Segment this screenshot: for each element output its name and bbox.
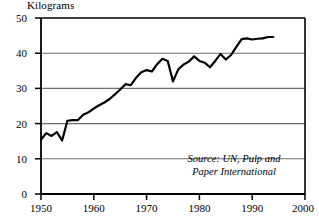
y-tick-label-50: 50 [5,12,27,24]
source-note-line-2: Paper International [163,165,305,178]
plot-area [0,0,319,219]
gridlines [41,53,305,159]
y-tick-label-10: 10 [5,153,27,165]
source-note: Source: UN, Pulp and Paper International [163,152,305,179]
y-tick-label-0: 0 [5,188,27,200]
chart-svg [0,0,319,219]
y-tick-label-40: 40 [5,47,27,59]
x-tick-label-1960: 1960 [74,202,114,214]
y-tick-label-20: 20 [5,118,27,130]
source-note-line-1: Source: UN, Pulp and [163,152,305,165]
x-tick-label-1970: 1970 [127,202,167,214]
y-tick-label-30: 30 [5,82,27,94]
x-tick-label-2000: 2000 [283,202,319,214]
x-tick-label-1950: 1950 [21,202,61,214]
x-tick-label-1980: 1980 [179,202,219,214]
chart-figure: Kilograms [0,0,319,219]
x-tick-label-1990: 1990 [232,202,272,214]
